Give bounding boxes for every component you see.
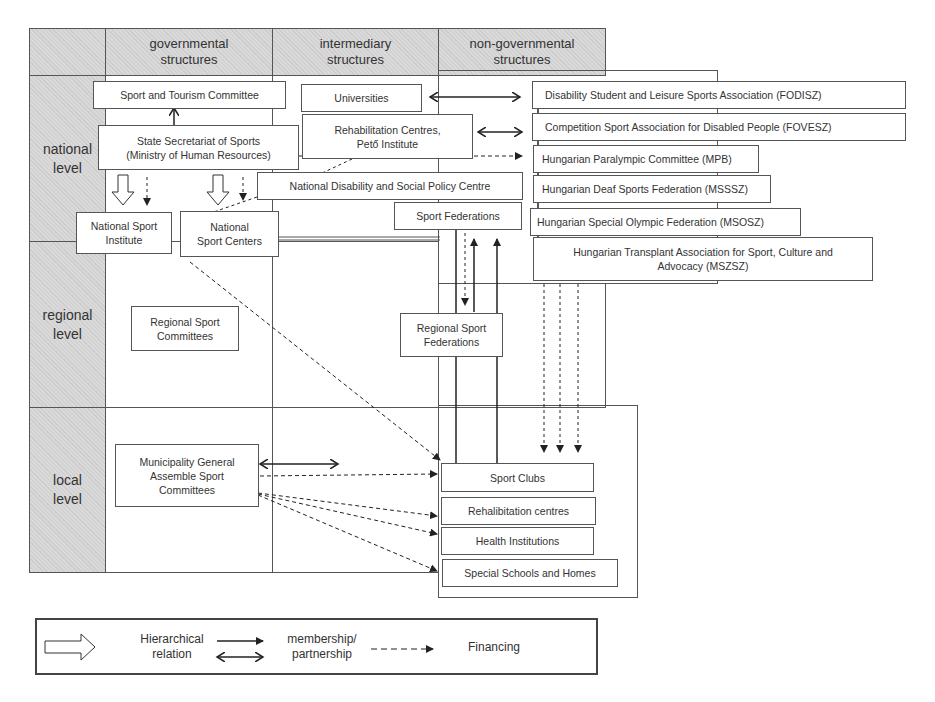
node-municipality-committees: Municipality General Assemble Sport Comm…: [115, 444, 259, 507]
node-ndspc: National Disability and Social Policy Ce…: [257, 172, 523, 200]
node-sport-tourism-committee: Sport and Tourism Committee: [93, 81, 286, 109]
node-msssz: Hungarian Deaf Sports Federation (MSSSZ): [533, 175, 771, 203]
legend-hierarchical-label: Hierarchical relation: [127, 632, 217, 662]
node-regional-sport-federations: Regional Sport Federations: [400, 313, 503, 357]
legend-membership-label: membership/ partnership: [277, 632, 367, 662]
hierarchical-arrow-icon: [45, 634, 95, 660]
legend-financing-label: Financing: [449, 640, 539, 655]
node-fovesz: Competition Sport Association for Disabl…: [532, 113, 906, 141]
legend: Hierarchical relation membership/ partne…: [35, 618, 598, 675]
node-rehabilitation-centres-peto: Rehabilitation Centres, Pető Institute: [302, 114, 473, 159]
node-national-sport-institute: National Sport Institute: [76, 212, 172, 254]
node-national-sport-centers: National Sport Centers: [180, 211, 279, 257]
node-fodisz: Disability Student and Leisure Sports As…: [532, 81, 906, 109]
node-sport-clubs: Sport Clubs: [441, 463, 594, 492]
node-regional-sport-committees: Regional Sport Committees: [131, 306, 239, 351]
node-mszsz: Hungarian Transplant Association for Spo…: [533, 237, 873, 281]
node-state-secretariat: State Secretariat of Sports (Ministry of…: [98, 125, 299, 170]
node-health-institutions: Health Institutions: [441, 527, 594, 555]
node-msosz: Hungarian Special Olympic Federation (MS…: [530, 208, 801, 236]
node-special-schools-homes: Special Schools and Homes: [442, 559, 618, 587]
node-rehabilitation-centres-local: Rehalibitation centres: [441, 497, 596, 525]
node-mpb: Hungarian Paralympic Committee (MPB): [533, 145, 759, 173]
node-universities: Universities: [301, 84, 422, 112]
node-sport-federations: Sport Federations: [394, 202, 522, 230]
